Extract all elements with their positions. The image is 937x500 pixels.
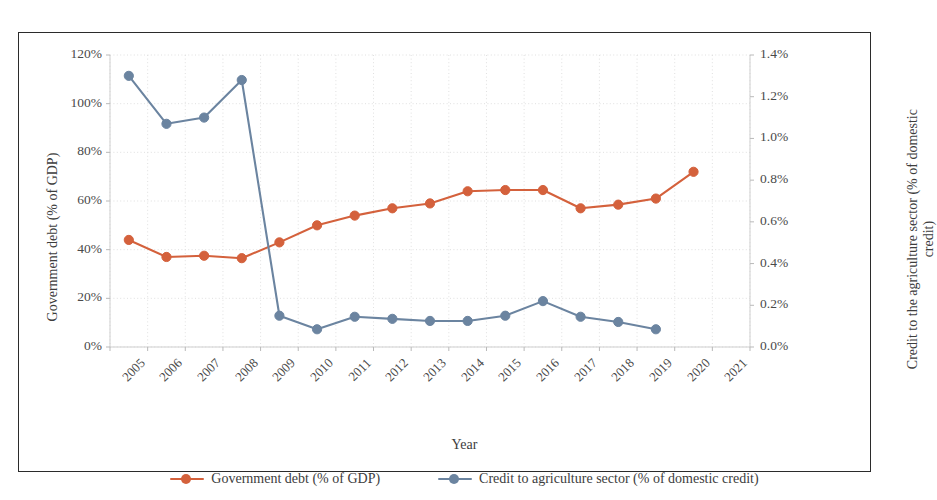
y-axis-left-tick-label: 0% [44,339,102,353]
y-axis-right-tick-label: 1.4% [760,47,818,61]
y-axis-right-tick-label: 0.2% [760,297,818,311]
y-axis-right-title: Credit to the agriculture sector (% of d… [905,94,937,384]
y-axis-right-tick-label: 0.6% [760,214,818,228]
y-axis-left-tick-label: 80% [44,144,102,158]
y-axis-right-tick-label: 0.8% [760,172,818,186]
y-axis-left-tick-label: 100% [44,96,102,110]
y-axis-right-tick-label: 0.0% [760,339,818,353]
y-axis-right-tick-label: 1.2% [760,89,818,103]
y-axis-right-tick-label: 0.4% [760,256,818,270]
y-axis-left-tick-label: 20% [44,290,102,304]
y-axis-right-tick-label: 1.0% [760,130,818,144]
y-axis-left-tick-label: 60% [44,193,102,207]
y-axis-left-tick-label: 120% [44,47,102,61]
y-axis-left-tick-label: 40% [44,242,102,256]
